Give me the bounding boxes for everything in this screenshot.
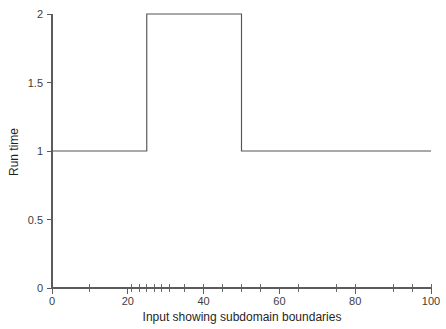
x-axis-tick-label: 0 (49, 295, 55, 307)
x-axis-tick-label: 40 (197, 295, 209, 307)
y-axis-tick-label: 2 (37, 8, 43, 20)
y-axis-tick-label: 0 (37, 282, 43, 294)
x-axis-tick-label: 80 (349, 295, 361, 307)
y-axis-title: Run time (7, 128, 21, 176)
chart-figure: 020406080100 00.511.52 Input showing sub… (0, 0, 446, 329)
y-axis-tick-label: 1.5 (28, 77, 43, 89)
y-axis-tick-label: 0.5 (28, 214, 43, 226)
x-axis-tick-label: 100 (422, 295, 440, 307)
x-axis-tick-label: 20 (122, 295, 134, 307)
x-axis-title: Input showing subdomain boundaries (143, 310, 342, 324)
x-axis-tick-label: 60 (273, 295, 285, 307)
chart-background (0, 0, 446, 329)
run-time-step-chart: 020406080100 00.511.52 Input showing sub… (0, 0, 446, 329)
y-axis-tick-label: 1 (37, 145, 43, 157)
